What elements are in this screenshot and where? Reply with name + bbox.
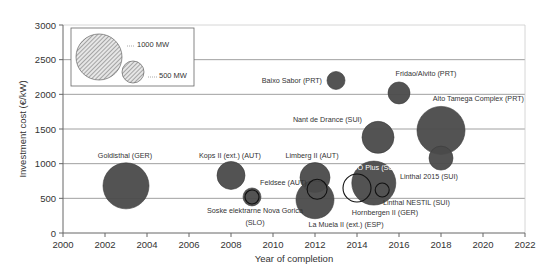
bubble-label: Soske elektrarne Nova Gorica — [207, 206, 303, 215]
y-tick-label: 1500 — [35, 124, 56, 135]
x-tick-label: 2004 — [136, 239, 157, 250]
y-tick-label: 2000 — [35, 89, 56, 100]
y-tick-label: 3000 — [35, 20, 56, 31]
bubble-label: (SLO) — [245, 218, 264, 227]
bubble-label: Kops II (ext.) (AUT) — [199, 151, 261, 160]
y-tick-label: 1000 — [35, 158, 56, 169]
bubble — [327, 71, 345, 89]
legend-bubble-500 — [122, 61, 144, 83]
bubble — [429, 146, 453, 170]
y-axis-label: Investment cost (€/kW) — [17, 80, 28, 177]
bubble-label: Goldisthal (GER) — [98, 151, 152, 160]
x-tick-label: 2010 — [262, 239, 283, 250]
bubble — [217, 161, 245, 189]
legend-label-500: 500 MW — [159, 71, 188, 80]
bubble-label: Nant de Drance (SUI) — [293, 115, 362, 124]
legend: 1000 MW500 MW — [71, 28, 194, 86]
y-tick-label: 500 — [40, 193, 56, 204]
bubble — [103, 163, 149, 209]
legend-bubble-1000 — [76, 34, 122, 80]
x-tick-label: 2022 — [514, 239, 535, 250]
x-tick-label: 2002 — [94, 239, 115, 250]
bubble-label: KWO Plus (SUI) — [346, 163, 398, 172]
bubble-chart: 0500100015002000250030002000200220042006… — [0, 0, 554, 280]
bubble-label: Limberg II (AUT) — [285, 151, 338, 160]
bubble-label: Alto Tamega Complex (PRT) — [433, 94, 524, 103]
chart-canvas: 0500100015002000250030002000200220042006… — [0, 0, 554, 280]
x-tick-label: 2006 — [178, 239, 199, 250]
bubble-label: Linthal NESTIL (SUI) — [383, 198, 450, 207]
x-tick-label: 2020 — [472, 239, 493, 250]
x-tick-label: 2018 — [430, 239, 451, 250]
bubble — [388, 82, 410, 104]
bubble-label: Feldsee (AUT) — [260, 178, 307, 187]
bubbles — [103, 71, 465, 218]
bubble-label: Hornbergen II (GER) — [352, 208, 418, 217]
y-tick-label: 0 — [51, 228, 56, 239]
x-tick-label: 2016 — [388, 239, 409, 250]
x-tick-label: 2012 — [304, 239, 325, 250]
y-tick-label: 2500 — [35, 54, 56, 65]
bubble-label: Linthal 2015 (SUI) — [400, 172, 458, 181]
x-tick-label: 2000 — [52, 239, 73, 250]
x-tick-label: 2008 — [220, 239, 241, 250]
legend-label-1000: 1000 MW — [137, 40, 170, 49]
bubble-label: Fridao/Alvito (PRT) — [396, 69, 457, 78]
x-tick-label: 2014 — [346, 239, 367, 250]
bubble — [362, 121, 394, 153]
bubble — [243, 188, 261, 206]
x-axis-label: Year of completion — [255, 253, 333, 264]
bubble-label: Baixo Sabor (PRT) — [262, 76, 322, 85]
bubble-label: La Muela II (ext.) (ESP) — [308, 220, 383, 229]
